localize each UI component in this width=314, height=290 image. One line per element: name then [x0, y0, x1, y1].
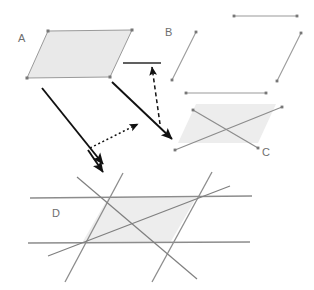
arrow-a-to-d — [42, 88, 103, 164]
b-left-endpoint-1 — [171, 79, 174, 82]
shape-b-segments-group — [171, 15, 303, 95]
c-diag-1-endpoint-0 — [192, 109, 195, 112]
c-diag-2-endpoint-0 — [174, 149, 177, 152]
b-top-endpoint-0 — [233, 15, 236, 18]
shape-a-group — [26, 29, 134, 80]
shape-a-vertex-dot-2 — [109, 76, 112, 79]
b-bottom-endpoint-1 — [265, 92, 268, 95]
arrow-c-to-segment — [152, 67, 160, 124]
shape-c-group — [174, 104, 284, 151]
shape-a-vertex-dot-1 — [131, 29, 134, 32]
shape-b-segment-b-left — [172, 32, 196, 80]
shape-d-d-line-bottom — [28, 242, 250, 243]
b-right-endpoint-0 — [300, 32, 303, 35]
arrow-d-to-c — [90, 124, 138, 148]
shape-a-vertex-dot-3 — [26, 77, 29, 80]
shape-a-parallelogram — [27, 30, 132, 78]
shape-d-d-line-top — [30, 196, 252, 198]
label-a: A — [18, 32, 26, 44]
b-left-endpoint-0 — [195, 31, 198, 34]
label-d: D — [52, 207, 60, 219]
label-c: C — [262, 146, 270, 158]
b-bottom-endpoint-0 — [185, 92, 188, 95]
shape-d-group — [28, 172, 252, 282]
shape-b-segment-b-right — [277, 33, 301, 81]
label-b: B — [165, 26, 173, 38]
arrows-group — [42, 67, 172, 172]
b-top-endpoint-1 — [296, 15, 299, 18]
arrow-a-to-c — [112, 82, 172, 139]
geometry-diagram: ABCD — [0, 0, 314, 290]
shape-a-vertex-dot-0 — [47, 30, 50, 33]
c-diag-2-endpoint-1 — [281, 106, 284, 109]
b-right-endpoint-1 — [276, 80, 279, 83]
diagram-canvas: ABCD — [0, 0, 314, 290]
c-diag-1-endpoint-1 — [257, 147, 260, 150]
